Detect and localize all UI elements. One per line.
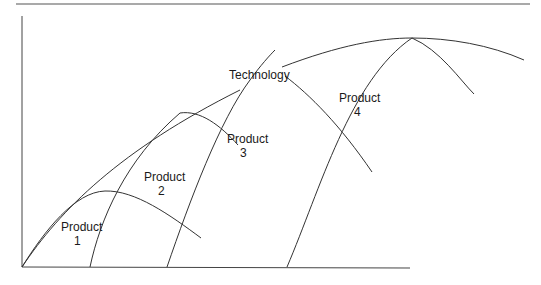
product-1-label-line2: 1 bbox=[74, 234, 81, 248]
product-2-label-line1: Product bbox=[144, 170, 186, 184]
life-cycle-diagram: Technology Product 1 Product 2 Product 3… bbox=[0, 0, 541, 285]
product-3-label-line1: Product bbox=[227, 132, 269, 146]
product-2-label-line2: 2 bbox=[158, 184, 165, 198]
x-axis bbox=[22, 267, 410, 268]
diagram-canvas: Technology Product 1 Product 2 Product 3… bbox=[0, 0, 541, 285]
product-3-label-line2: 3 bbox=[240, 146, 247, 160]
product-1-label-line1: Product bbox=[61, 220, 103, 234]
product-4-curve bbox=[287, 38, 474, 267]
product-3-curve bbox=[167, 50, 275, 267]
product-4-label-line2: 4 bbox=[354, 105, 361, 119]
product-4-label-line1: Product bbox=[339, 91, 381, 105]
technology-label: Technology bbox=[229, 68, 290, 82]
